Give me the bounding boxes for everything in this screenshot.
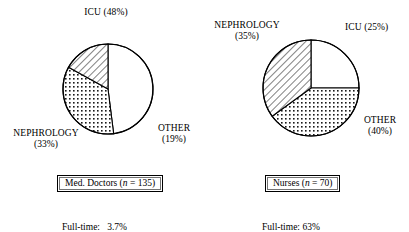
pie-label-nephrology-pct: (33%): [34, 139, 58, 149]
stats-nurses: Full-time: 63% Part-time: 37%: [262, 199, 320, 232]
pie-slice-icu: [311, 40, 359, 88]
panel-title-suffix: = 70): [310, 178, 333, 188]
pie-svg-med-doctors: [60, 41, 156, 137]
stat-label-fulltime: Full-time:: [62, 222, 100, 232]
stat-value-fulltime: 63%: [302, 222, 319, 232]
pie-label-other-pct: (19%): [162, 134, 186, 144]
panel-title-suffix: = 135): [128, 178, 156, 188]
pie-label-other: OTHER (40%): [353, 115, 407, 137]
pie-label-nephrology-name: NEPHROLOGY: [214, 20, 279, 30]
panel-title-box-nurses: Nurses (n = 70): [265, 175, 340, 192]
stat-row-fulltime: Full-time: 3.7%: [62, 222, 127, 232]
panel-title-text: Med. Doctors (: [65, 178, 123, 188]
pie-label-other-pct: (40%): [368, 126, 392, 136]
stat-label-fulltime: Full-time:: [262, 222, 300, 232]
pie-chart-med-doctors: [60, 41, 156, 137]
panel-med-doctors: ICU (48%) NEPHROLOGY (33%): [0, 0, 204, 232]
panel-title-text: Nurses (: [273, 178, 305, 188]
pie-label-other: OTHER (19%): [148, 123, 200, 145]
pie-label-other-name: OTHER: [364, 115, 396, 125]
panel-nurses: NEPHROLOGY (35%) ICU (25%): [205, 0, 409, 232]
pie-label-icu: ICU (48%): [56, 7, 156, 18]
stat-value-fulltime: 3.7%: [107, 222, 127, 232]
panel-title-box-med-doctors: Med. Doctors (n = 135): [57, 175, 163, 192]
stats-med-doctors: Full-time: 3.7% Part-time: 96.3%: [62, 199, 127, 232]
pie-label-icu: ICU (25%): [345, 22, 388, 33]
pie-label-nephrology-pct: (35%): [235, 31, 259, 41]
pie-label-nephrology: NEPHROLOGY (33%): [2, 128, 90, 150]
stat-row-fulltime: Full-time: 63%: [262, 222, 320, 232]
pie-svg-nurses: [260, 37, 362, 139]
pie-slice-icu: [108, 44, 153, 134]
pie-label-other-name: OTHER: [158, 123, 190, 133]
pie-label-nephrology-name: NEPHROLOGY: [13, 128, 78, 138]
pie-chart-nurses: [260, 37, 362, 139]
